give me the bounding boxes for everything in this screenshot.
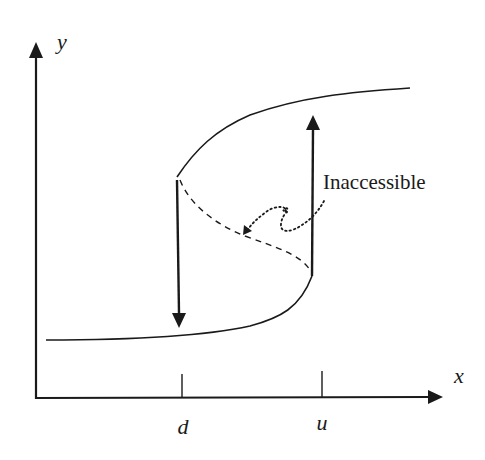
- hysteresis-diagram: y x d u Inaccessible: [0, 0, 485, 460]
- x-axis-arrow-icon: [428, 390, 443, 404]
- jump-down-line: [177, 180, 179, 313]
- inaccessible-label: Inaccessible: [323, 170, 426, 194]
- jump-up-line: [312, 129, 313, 276]
- tick-d-label: d: [178, 414, 190, 439]
- jump-down-arrow: [172, 180, 186, 328]
- x-axis-line: [36, 397, 428, 398]
- inaccessible-annotation: Inaccessible: [243, 170, 426, 235]
- y-axis-label: y: [55, 29, 67, 54]
- y-axis: y: [29, 29, 67, 399]
- jump-up-arrow: [306, 115, 320, 276]
- tick-u-label: u: [317, 410, 328, 435]
- arrow-down-icon: [172, 313, 186, 328]
- x-axis: x: [36, 363, 464, 404]
- tick-d: d: [178, 374, 190, 439]
- x-axis-label: x: [453, 363, 464, 388]
- tick-u: u: [317, 371, 328, 435]
- y-axis-arrow-icon: [29, 42, 43, 58]
- unstable-branch-curve: [180, 180, 310, 270]
- arrow-up-icon: [306, 115, 320, 130]
- upper-branch-curve: [177, 88, 410, 177]
